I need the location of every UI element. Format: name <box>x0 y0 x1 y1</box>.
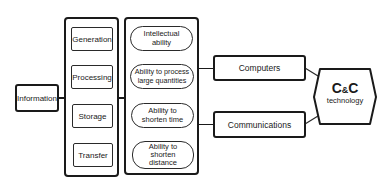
technology-label: Communications <box>228 120 291 130</box>
ability-label: Ability to process large quantities <box>131 68 193 85</box>
function-box-storage: Storage <box>72 104 113 128</box>
function-label: Transfer <box>78 151 108 160</box>
technology-box-communications: Communications <box>213 111 306 138</box>
cc-technology-label: C&C technology <box>314 80 376 105</box>
connector-communications-cc <box>305 116 318 124</box>
connector-computers-cc <box>305 68 318 76</box>
function-box-processing: Processing <box>71 65 113 89</box>
ability-label: Ability to shorten time <box>140 107 186 124</box>
information-label: Information <box>17 94 57 103</box>
function-label: Generation <box>72 35 112 44</box>
technology-box-computers: Computers <box>213 55 306 81</box>
ability-pill-process-large-quantities: Ability to process large quantities <box>130 64 194 89</box>
function-box-generation: Generation <box>71 27 113 51</box>
ability-label: Ability to shorten distance <box>144 143 182 167</box>
cc-subtitle: technology <box>314 96 376 105</box>
ability-pill-shorten-distance: Ability to shorten distance <box>132 141 194 169</box>
function-box-transfer: Transfer <box>73 143 113 167</box>
technology-label: Computers <box>239 63 281 73</box>
function-label: Storage <box>78 112 106 121</box>
ability-label: Intellectual ability <box>142 30 182 47</box>
function-label: Processing <box>72 73 112 82</box>
ability-pill-shorten-time: Ability to shorten time <box>131 103 194 128</box>
ability-pill-intellectual: Intellectual ability <box>130 26 193 51</box>
information-box: Information <box>15 84 59 112</box>
cc-title: C&C <box>314 80 376 96</box>
